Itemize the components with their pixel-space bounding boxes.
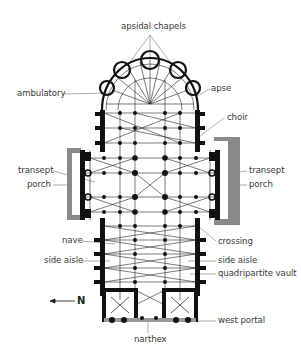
label-transept-left: transept: [18, 166, 53, 175]
label-ambulatory: ambulatory: [17, 89, 65, 98]
label-crossing: crossing: [218, 237, 253, 246]
label-apse: apse: [211, 84, 231, 93]
label-side-aisle-right: side aisle: [218, 256, 257, 265]
label-quadripartite-vault: quadripartite vault: [218, 269, 297, 278]
north-arrow-icon: [50, 299, 75, 303]
label-porch-right: porch: [249, 180, 273, 189]
label-apsidal-chapels: apsidal chapels: [121, 22, 186, 31]
label-transept-right: transept: [249, 166, 284, 175]
label-side-aisle-left: side aisle: [44, 256, 83, 265]
outer-walls: [80, 110, 220, 322]
label-porch-left: porch: [27, 180, 51, 189]
label-choir: choir: [227, 113, 248, 122]
label-west-portal: west portal: [218, 316, 265, 325]
north-label: N: [77, 295, 85, 306]
label-nave: nave: [62, 236, 83, 245]
label-narthex: narthex: [134, 335, 167, 344]
